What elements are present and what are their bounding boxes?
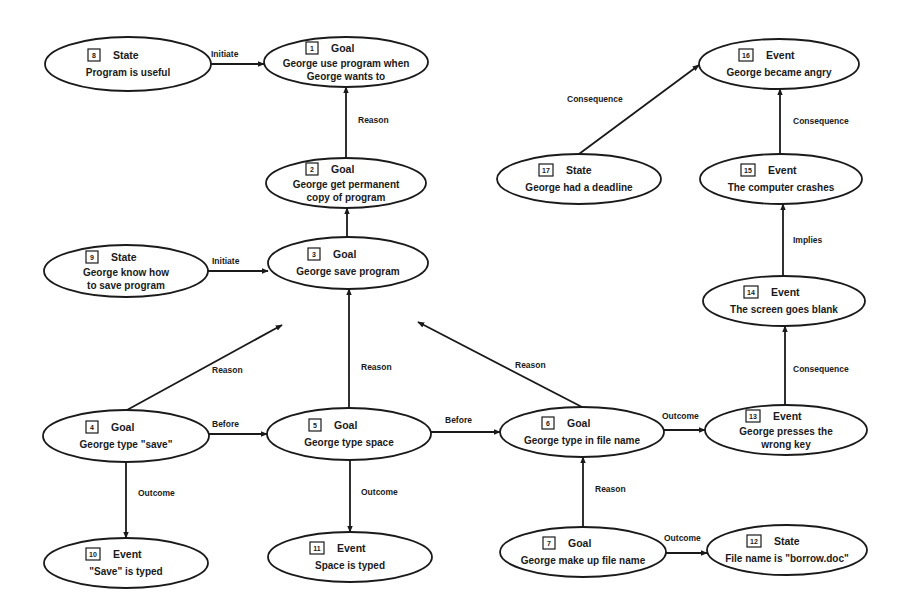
- node-12-state: 12StateFile name is "borrow.doc": [707, 525, 867, 575]
- node-description: File name is "borrow.doc": [725, 553, 849, 564]
- node-type: Event: [113, 548, 142, 560]
- node-type: Goal: [111, 421, 134, 433]
- node-type: Goal: [568, 537, 591, 549]
- node-description: George make up file name: [521, 555, 646, 566]
- edge-5-to-6: Before: [431, 415, 500, 432]
- node-number: 6: [546, 420, 550, 427]
- node-9-state: 9StateGeorge know howto save program: [44, 245, 208, 297]
- node-description: George get permanent: [293, 179, 400, 190]
- edge-6-to-3: Reason: [418, 322, 582, 407]
- node-type: State: [111, 251, 137, 263]
- node-description: George use program when: [283, 58, 410, 69]
- node-type: State: [774, 535, 800, 547]
- node-ellipse: [267, 408, 431, 460]
- edge-label: Consequence: [793, 364, 849, 374]
- edge-label: Consequence: [567, 94, 623, 104]
- edge-label: Consequence: [793, 116, 849, 126]
- node-type: State: [113, 49, 139, 61]
- node-ellipse: [500, 407, 664, 457]
- edge-label: Reason: [595, 484, 626, 494]
- node-description: George type space: [304, 437, 394, 448]
- node-number: 9: [90, 254, 94, 261]
- causal-network-diagram: InitiateReasonReasonInitiateReasonReason…: [0, 0, 901, 610]
- node-type: Goal: [334, 419, 357, 431]
- node-ellipse: [268, 237, 428, 289]
- edge-5-to-3: Reason: [349, 289, 392, 408]
- edge-6-to-13: Outcome: [662, 411, 705, 430]
- node-number: 2: [310, 166, 314, 173]
- edge-label: Outcome: [662, 411, 699, 421]
- node-number: 12: [750, 538, 758, 545]
- node-description: Space is typed: [315, 560, 385, 571]
- edge-4-to-10: Outcome: [126, 462, 175, 538]
- edge-5-to-11: Outcome: [350, 460, 398, 532]
- node-description: George became angry: [726, 67, 831, 78]
- node-description: George type in file name: [524, 435, 641, 446]
- node-description: The computer crashes: [728, 182, 835, 193]
- node-description: George wants to: [307, 71, 385, 82]
- edge-label: Before: [445, 415, 472, 425]
- node-number: 14: [747, 289, 755, 296]
- node-ellipse: [43, 410, 209, 462]
- node-type: Goal: [331, 42, 354, 54]
- edge-label: Reason: [515, 360, 546, 370]
- node-7-goal: 7GoalGeorge make up file name: [500, 527, 666, 577]
- node-number: 13: [749, 413, 757, 420]
- node-ellipse: [707, 525, 867, 575]
- node-number: 15: [744, 167, 752, 174]
- node-description: Program is useful: [86, 67, 171, 78]
- edge-label: Initiate: [212, 256, 240, 266]
- node-number: 3: [312, 251, 316, 258]
- node-2-goal: 2GoalGeorge get permanentcopy of program: [266, 158, 426, 208]
- node-1-goal: 1GoalGeorge use program whenGeorge wants…: [264, 37, 428, 87]
- node-ellipse: [497, 154, 661, 204]
- node-type: Goal: [331, 163, 354, 175]
- node-ellipse: [268, 532, 432, 582]
- node-type: Event: [771, 286, 800, 298]
- edge-9-to-3: Initiate: [208, 256, 268, 271]
- node-number: 1: [310, 45, 314, 52]
- edge-arrow: [579, 65, 699, 154]
- edge-label: Outcome: [361, 487, 398, 497]
- node-3-goal: 3GoalGeorge save program: [268, 237, 428, 289]
- node-number: 16: [742, 52, 750, 59]
- node-16-event: 16EventGeorge became angry: [699, 39, 859, 89]
- node-ellipse: [700, 154, 862, 204]
- node-description: "Save" is typed: [89, 566, 162, 577]
- node-11-event: 11EventSpace is typed: [268, 532, 432, 582]
- edge-4-to-3: Reason: [127, 325, 282, 410]
- edge-7-to-6: Reason: [583, 457, 626, 527]
- edge-label: Reason: [361, 362, 392, 372]
- node-ellipse: [44, 538, 208, 588]
- node-14-event: 14EventThe screen goes blank: [703, 276, 865, 326]
- edge-14-to-15: Implies: [783, 204, 823, 276]
- node-17-state: 17StateGeorge had a deadline: [497, 154, 661, 204]
- node-description: The screen goes blank: [730, 304, 838, 315]
- edge-label: Before: [212, 419, 239, 429]
- node-type: Event: [773, 410, 802, 422]
- edge-label: Reason: [358, 115, 389, 125]
- nodes-layer: 1GoalGeorge use program whenGeorge wants…: [43, 37, 867, 588]
- node-5-goal: 5GoalGeorge type space: [267, 408, 431, 460]
- node-type: Event: [768, 164, 797, 176]
- node-6-goal: 6GoalGeorge type in file name: [500, 407, 664, 457]
- node-ellipse: [699, 39, 859, 89]
- node-15-event: 15EventThe computer crashes: [700, 154, 862, 204]
- edge-7-to-12: Outcome: [664, 533, 707, 553]
- edge-8-to-1: Initiate: [211, 49, 264, 64]
- node-number: 10: [89, 551, 97, 558]
- node-description: George had a deadline: [525, 182, 633, 193]
- node-type: Event: [766, 49, 795, 61]
- node-number: 5: [313, 422, 317, 429]
- node-number: 17: [542, 167, 550, 174]
- node-description: George know how: [83, 267, 169, 278]
- node-number: 8: [92, 52, 96, 59]
- node-ellipse: [45, 37, 211, 91]
- node-number: 11: [313, 545, 321, 552]
- node-type: State: [566, 164, 592, 176]
- edge-arrow: [418, 322, 582, 407]
- node-description: copy of program: [307, 192, 386, 203]
- node-description: wrong key: [760, 439, 811, 450]
- node-ellipse: [703, 276, 865, 326]
- edge-label: Outcome: [664, 533, 701, 543]
